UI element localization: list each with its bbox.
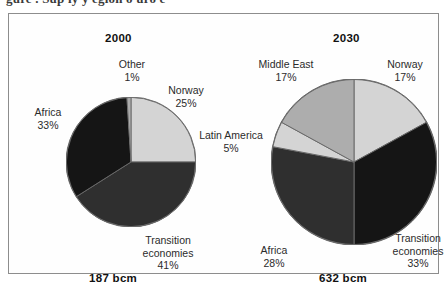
label-other-name: Other — [119, 58, 145, 70]
label-middle-east-2030: Middle East 17% — [241, 58, 331, 83]
label-africa-2000: Africa 33% — [17, 106, 79, 131]
panel-title-2030: 2030 — [333, 32, 360, 44]
label-transition-2030-percent: 33% — [385, 257, 446, 270]
label-africa-2030: Africa 28% — [243, 244, 305, 269]
label-transition-2030-line2: economies — [385, 245, 446, 258]
label-middle-east-percent: 17% — [241, 71, 331, 84]
label-latin-america-2030: Latin America 5% — [191, 129, 271, 154]
total-2030: 632 bcm — [319, 272, 367, 284]
figure-frame: 2000 Other 1% Norway 25% Africa 33% Tran… — [8, 13, 439, 274]
label-latin-america-percent: 5% — [191, 142, 271, 155]
label-norway-2000: Norway 25% — [149, 84, 223, 109]
label-transition-2000: Transition economies 41% — [125, 234, 211, 272]
label-africa-2000-percent: 33% — [17, 119, 79, 132]
label-norway-2030: Norway 17% — [369, 58, 441, 83]
label-africa-2030-name: Africa — [261, 244, 288, 256]
total-2000: 187 bcm — [89, 272, 137, 284]
label-africa-2000-name: Africa — [35, 106, 62, 118]
pie-chart-2000 — [66, 97, 196, 227]
label-transition-2030: Transition economies 33% — [385, 232, 446, 270]
label-transition-2030-line1: Transition — [395, 232, 441, 244]
label-norway-2000-percent: 25% — [149, 97, 223, 110]
label-norway-2000-name: Norway — [168, 84, 204, 96]
label-middle-east-name: Middle East — [259, 58, 314, 70]
label-other-percent: 1% — [95, 71, 169, 84]
label-africa-2030-percent: 28% — [243, 257, 305, 270]
label-transition-2000-percent: 41% — [125, 259, 211, 272]
label-norway-2030-name: Norway — [387, 58, 423, 70]
label-latin-america-name: Latin America — [199, 129, 263, 141]
panel-title-2000: 2000 — [105, 32, 132, 44]
clipped-figure-caption: gure . Sup ly y egion o uro e — [0, 0, 446, 7]
pie-slice-africa-2030 — [271, 147, 354, 245]
label-other-2000: Other 1% — [95, 58, 169, 83]
pie-chart-2030 — [271, 79, 437, 245]
label-norway-2030-percent: 17% — [369, 71, 441, 84]
label-transition-2000-line1: Transition — [145, 234, 191, 246]
label-transition-2000-line2: economies — [125, 247, 211, 260]
